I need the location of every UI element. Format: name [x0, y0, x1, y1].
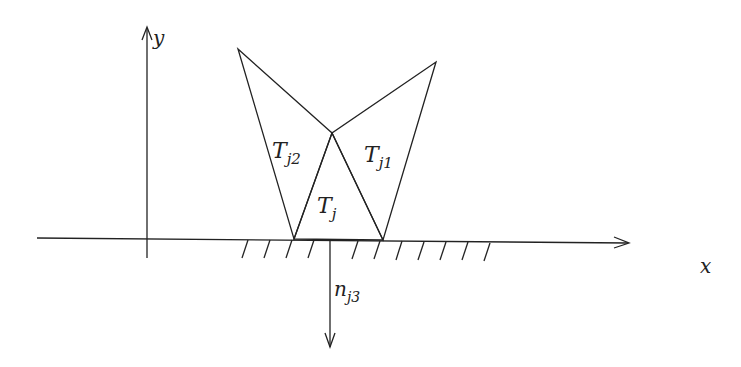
- label-tj2: Tj2: [272, 138, 301, 168]
- label-tj: Tj: [317, 193, 337, 223]
- x-axis: [37, 238, 628, 243]
- boundary-hatching: [242, 240, 490, 261]
- y-axis-label: y: [152, 26, 165, 50]
- diagram: y x Tj2 Tj1 Tj nj3: [0, 0, 741, 367]
- x-axis-label: x: [700, 254, 711, 278]
- diagram-canvas: y x Tj2 Tj1 Tj nj3: [0, 0, 741, 367]
- triangle-tj1: [332, 62, 436, 240]
- label-tj1: Tj1: [364, 142, 393, 172]
- label-nj3: nj3: [334, 277, 360, 305]
